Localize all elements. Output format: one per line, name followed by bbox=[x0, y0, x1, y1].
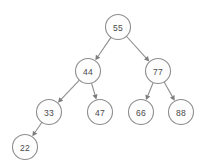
tree-node-44[interactable]: 44 bbox=[76, 59, 101, 84]
node-label: 77 bbox=[153, 67, 163, 77]
node-label: 55 bbox=[113, 23, 123, 33]
binary-tree-diagram: 5544773347668822 bbox=[0, 0, 204, 168]
tree-edge-44-47 bbox=[92, 83, 98, 100]
edge-line bbox=[98, 37, 111, 56]
edge-line bbox=[126, 36, 146, 58]
tree-node-33[interactable]: 33 bbox=[37, 100, 62, 125]
tree-edge-55-77 bbox=[126, 36, 149, 61]
edge-line bbox=[35, 122, 42, 132]
tree-edge-44-33 bbox=[58, 80, 79, 103]
tree-node-47[interactable]: 47 bbox=[88, 100, 113, 125]
node-label: 44 bbox=[83, 67, 93, 77]
node-label: 66 bbox=[136, 108, 146, 118]
edge-arrowhead-icon bbox=[32, 131, 37, 137]
edge-line bbox=[148, 83, 153, 96]
tree-edge-55-44 bbox=[95, 37, 111, 60]
node-label: 22 bbox=[20, 143, 30, 153]
tree-edge-33-22 bbox=[32, 122, 42, 136]
tree-edge-77-66 bbox=[145, 83, 153, 101]
node-label: 88 bbox=[176, 108, 186, 118]
tree-edge-77-88 bbox=[164, 82, 175, 101]
tree-node-22[interactable]: 22 bbox=[13, 135, 38, 160]
edge-arrowhead-icon bbox=[92, 94, 97, 100]
edge-arrowhead-icon bbox=[95, 55, 100, 61]
tree-node-77[interactable]: 77 bbox=[146, 59, 171, 84]
node-label: 33 bbox=[44, 108, 54, 118]
diagram-canvas: 5544773347668822 bbox=[0, 0, 204, 168]
tree-node-88[interactable]: 88 bbox=[169, 100, 194, 125]
edge-line bbox=[164, 82, 172, 96]
tree-node-66[interactable]: 66 bbox=[129, 100, 154, 125]
tree-node-55[interactable]: 55 bbox=[106, 15, 131, 40]
edge-line bbox=[92, 83, 95, 95]
edge-line bbox=[61, 80, 79, 99]
node-label: 47 bbox=[95, 108, 105, 118]
